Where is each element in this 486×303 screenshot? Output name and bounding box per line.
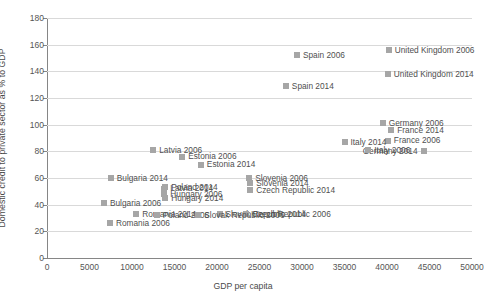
grid-line <box>47 231 472 232</box>
y-tick-label: 40 <box>0 200 44 210</box>
y-tick-label: 20 <box>0 226 44 236</box>
y-tick-label: 60 <box>0 173 44 183</box>
data-point-label: Hungary 2014 <box>171 193 223 203</box>
y-axis-title-holder: Domestic credit to private sector as % t… <box>14 18 15 258</box>
data-point-label: Bulgaria 2006 <box>110 198 161 208</box>
y-tick-label: 160 <box>0 40 44 50</box>
data-point-marker <box>101 200 107 206</box>
x-axis-line <box>47 258 472 259</box>
x-tick-label: 50000 <box>442 262 486 272</box>
data-point-label: United Kingdom 2014 <box>394 69 474 79</box>
y-tick-label: 100 <box>0 120 44 130</box>
data-point-marker <box>365 147 371 153</box>
data-point-marker <box>107 220 113 226</box>
x-axis-title: GDP per capita <box>0 281 486 291</box>
data-point-label: United Kingdom 2006 <box>395 45 475 55</box>
data-point-marker <box>283 83 289 89</box>
data-point-label: Slovak Republic 2006 <box>204 210 284 220</box>
grid-line <box>47 18 472 19</box>
data-point-label: France 2014 <box>397 125 444 135</box>
data-point-marker <box>380 120 386 126</box>
data-point-label: Bulgaria 2014 <box>117 173 168 183</box>
data-point-label: Italy 2006 <box>374 145 410 155</box>
y-tick-label: 140 <box>0 66 44 76</box>
plot-area: United Kingdom 2006Spain 2006United King… <box>47 18 472 258</box>
data-point-marker <box>198 162 204 168</box>
data-point-label: Czech Republic 2014 <box>256 185 335 195</box>
data-point-label: Spain 2006 <box>303 50 345 60</box>
data-point-marker <box>133 211 139 217</box>
data-point-marker <box>421 148 427 154</box>
y-tick-label: 180 <box>0 13 44 23</box>
data-point-marker <box>385 71 391 77</box>
grid-line <box>47 98 472 99</box>
data-point-marker <box>150 147 156 153</box>
data-point-marker <box>342 139 348 145</box>
data-point-marker <box>386 47 392 53</box>
y-tick-label: 120 <box>0 93 44 103</box>
y-tick-label: 80 <box>0 146 44 156</box>
data-point-label: Estonia 2014 <box>207 159 255 169</box>
scatter-chart: Domestic credit to private sector as % t… <box>0 0 486 303</box>
data-point-marker <box>108 175 114 181</box>
data-point-marker <box>388 127 394 133</box>
data-point-marker <box>162 195 168 201</box>
data-point-marker <box>247 180 253 186</box>
data-point-marker <box>195 212 201 218</box>
data-point-marker <box>247 187 253 193</box>
data-point-label: Spain 2014 <box>292 81 334 91</box>
data-point-marker <box>294 52 300 58</box>
data-point-label: Romania 2006 <box>116 218 170 228</box>
data-point-marker <box>179 154 185 160</box>
